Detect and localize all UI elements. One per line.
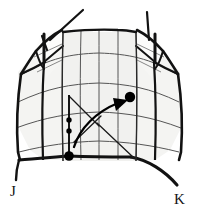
label-k: K xyxy=(174,191,185,207)
dot-target-marker xyxy=(125,92,135,102)
outline-bottom-center xyxy=(69,156,131,157)
technical-illustration: J K xyxy=(0,0,197,211)
label-j: J xyxy=(10,183,16,199)
dot-lower-marker xyxy=(66,128,71,133)
dot-origin-marker xyxy=(64,151,74,161)
dot-upper-marker xyxy=(66,117,71,122)
figure-container: J K xyxy=(0,0,197,211)
